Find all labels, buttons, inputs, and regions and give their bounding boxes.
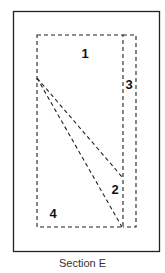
dashed-diagonal-upper: [37, 78, 123, 178]
dashed-strip-region-3: [123, 35, 136, 227]
region-4-label: 4: [49, 207, 56, 220]
dashed-main-outline: [37, 35, 123, 227]
region-2-label: 2: [111, 183, 118, 196]
region-3-label: 3: [125, 78, 132, 91]
diagram-caption: Section E: [0, 258, 165, 269]
section-diagram: [0, 0, 165, 273]
region-1-label: 1: [81, 47, 88, 60]
